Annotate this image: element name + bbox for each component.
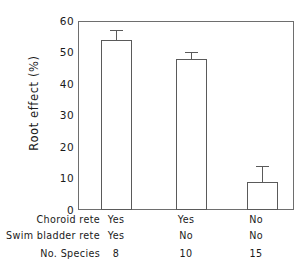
annotation-table: Choroid rete Yes Yes No Swim bladder ret… — [0, 214, 308, 271]
annotation-cell-no-species-3: 15 — [229, 248, 283, 259]
bar-choroid-no-swim-no[interactable] — [247, 182, 278, 210]
annotation-cell-no-species-1: 8 — [89, 248, 143, 259]
bar-choroid-yes-swim-yes[interactable] — [101, 40, 132, 210]
annotation-cell-choroid-rete-1: Yes — [89, 214, 143, 225]
error-bar-stem-2 — [191, 52, 192, 59]
annotation-cell-choroid-rete-3: No — [229, 214, 283, 225]
figure-root: Root effect (%) 60 50 40 30 20 10 0 Chor… — [0, 0, 308, 271]
y-tick-label-10: 10 — [44, 173, 74, 183]
y-tick-label-50: 50 — [44, 47, 74, 57]
y-tick-label-40: 40 — [44, 79, 74, 89]
error-bar-stem-3 — [262, 166, 263, 182]
error-bar-cap-1 — [110, 30, 123, 31]
annotation-cell-swim-bladder-rete-3: No — [229, 230, 283, 241]
y-axis-title: Root effect (%) — [27, 33, 41, 173]
annotation-row-swim-bladder-rete: Swim bladder rete Yes No No — [0, 230, 308, 247]
annotation-cell-no-species-2: 10 — [159, 248, 213, 259]
annotation-cell-choroid-rete-2: Yes — [159, 214, 213, 225]
bar-choroid-yes-swim-no[interactable] — [176, 59, 207, 210]
annotation-row-label-no-species: No. Species — [4, 248, 100, 259]
annotation-cell-swim-bladder-rete-2: No — [159, 230, 213, 241]
y-tick-label-20: 20 — [44, 142, 74, 152]
annotation-cell-swim-bladder-rete-1: Yes — [89, 230, 143, 241]
error-bar-cap-3 — [256, 166, 269, 167]
annotation-row-label-swim-bladder-rete: Swim bladder rete — [4, 230, 100, 241]
error-bar-stem-1 — [116, 30, 117, 40]
annotation-row-no-species: No. Species 8 10 15 — [0, 248, 308, 265]
y-tick-label-60: 60 — [44, 16, 74, 26]
annotation-row-choroid-rete: Choroid rete Yes Yes No — [0, 214, 308, 231]
annotation-row-label-choroid-rete: Choroid rete — [4, 214, 100, 225]
error-bar-cap-2 — [185, 52, 198, 53]
y-tick-label-30: 30 — [44, 110, 74, 120]
